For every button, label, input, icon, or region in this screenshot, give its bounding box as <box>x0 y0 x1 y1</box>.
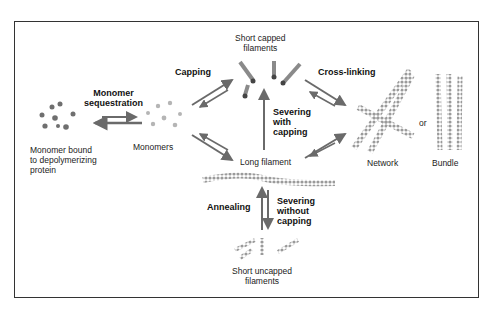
process-severing-with-capping: Severing with capping <box>273 107 311 137</box>
node-bundle: Bundle <box>432 158 458 168</box>
node-monomer-bound: Monomer bound to depolymerizing protein <box>30 145 97 175</box>
process-capping: Capping <box>175 67 211 77</box>
short-uncapped-filaments-icon <box>235 238 298 258</box>
bound-monomers-icon <box>40 102 76 130</box>
process-severing-without-capping: Severing without capping <box>277 196 315 226</box>
node-or: or <box>419 118 427 128</box>
network-icon <box>354 70 413 152</box>
process-monomer-sequestration: Monomer sequestration <box>84 88 143 108</box>
process-cross-linking: Cross-linking <box>318 67 376 77</box>
long-filament-icon <box>203 175 335 183</box>
node-short-uncapped: Short uncapped filaments <box>232 266 292 286</box>
node-long-filament: Long filament <box>240 157 291 167</box>
short-capped-filaments-icon <box>240 61 300 95</box>
monomers-icon <box>146 101 182 127</box>
node-short-capped: Short capped filaments <box>235 33 286 53</box>
process-annealing: Annealing <box>207 202 251 212</box>
bundle-icon <box>438 74 460 150</box>
node-network: Network <box>367 158 398 168</box>
node-monomers: Monomers <box>133 142 173 152</box>
